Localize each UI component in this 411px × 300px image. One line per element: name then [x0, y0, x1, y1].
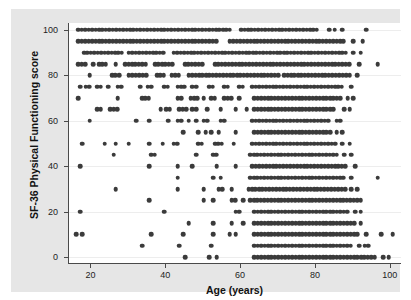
data-point — [161, 50, 166, 55]
y-tick-mark — [64, 30, 68, 31]
data-point — [113, 62, 118, 67]
data-point — [78, 209, 83, 214]
data-point — [194, 107, 199, 112]
data-point — [276, 73, 281, 78]
data-point — [113, 141, 118, 146]
data-point — [340, 141, 345, 146]
data-point — [209, 130, 214, 135]
data-point — [201, 96, 206, 101]
data-point — [364, 28, 369, 33]
data-point — [359, 50, 364, 55]
figure-canvas: 020406080100 20406080100 Age (years) SF-… — [11, 9, 400, 292]
data-point — [338, 118, 343, 123]
data-point — [147, 96, 152, 101]
data-point — [355, 187, 360, 192]
data-point — [359, 221, 364, 226]
data-point — [152, 153, 157, 158]
data-point — [341, 39, 346, 44]
data-point — [340, 28, 345, 33]
data-point — [113, 187, 118, 192]
data-point — [331, 107, 336, 112]
data-point — [212, 96, 217, 101]
data-point — [333, 141, 338, 146]
data-point — [233, 130, 238, 135]
data-point — [149, 84, 154, 89]
data-point — [218, 107, 223, 112]
plot-inner-canvas — [69, 23, 401, 263]
data-point — [210, 84, 215, 89]
data-point — [348, 243, 353, 248]
y-tick-mark — [64, 166, 68, 167]
data-point — [340, 130, 345, 135]
data-point — [344, 50, 349, 55]
data-point — [229, 187, 234, 192]
data-point — [194, 118, 199, 123]
data-point — [106, 84, 111, 89]
data-point — [190, 164, 195, 169]
x-tick-mark — [240, 264, 241, 268]
data-point — [351, 96, 356, 101]
data-point — [91, 62, 96, 67]
data-point — [328, 130, 333, 135]
data-point — [199, 141, 204, 146]
data-point — [220, 187, 225, 192]
x-tick-mark — [390, 264, 391, 268]
data-point — [200, 62, 205, 67]
data-point — [237, 96, 242, 101]
data-point — [347, 107, 352, 112]
x-tick-mark — [165, 264, 166, 268]
data-point — [127, 141, 132, 146]
data-point — [120, 50, 125, 55]
data-point — [327, 28, 332, 33]
data-point — [83, 62, 88, 67]
data-point — [175, 187, 180, 192]
data-point — [138, 84, 143, 89]
data-point — [170, 62, 175, 67]
data-point — [205, 118, 210, 123]
data-point — [115, 96, 120, 101]
data-point — [349, 187, 354, 192]
data-point — [355, 73, 360, 78]
x-tick-label: 80 — [302, 271, 328, 280]
data-point — [359, 209, 364, 214]
y-tick-mark — [64, 121, 68, 122]
data-point — [147, 198, 152, 203]
data-point — [195, 96, 200, 101]
data-point — [233, 107, 238, 112]
data-point — [342, 153, 347, 158]
data-point — [345, 96, 350, 101]
data-point — [87, 84, 92, 89]
data-point — [175, 175, 180, 180]
y-tick-mark — [64, 212, 68, 213]
data-point — [240, 84, 245, 89]
data-point — [183, 255, 188, 260]
data-point — [149, 232, 154, 237]
data-point — [80, 232, 85, 237]
data-point — [161, 73, 166, 78]
data-point — [119, 84, 124, 89]
x-tick-mark — [315, 264, 316, 268]
data-point — [214, 164, 219, 169]
data-point — [352, 221, 357, 226]
data-point — [360, 39, 365, 44]
data-point — [343, 164, 348, 169]
data-point — [211, 232, 216, 237]
x-tick-label: 100 — [377, 271, 403, 280]
data-point — [179, 118, 184, 123]
data-point — [80, 141, 85, 146]
x-tick-label: 20 — [77, 271, 103, 280]
data-point — [343, 187, 348, 192]
data-point — [177, 243, 182, 248]
data-point — [332, 28, 337, 33]
data-point — [233, 232, 238, 237]
data-point — [334, 130, 339, 135]
data-point — [214, 255, 219, 260]
plot-area — [68, 23, 401, 264]
x-tick-label: 60 — [227, 271, 253, 280]
data-point — [194, 153, 199, 158]
data-point — [179, 96, 184, 101]
data-point — [181, 130, 186, 135]
data-point — [175, 164, 180, 169]
y-axis-title: SF-36 Physical Functioning score — [28, 30, 40, 240]
data-point — [358, 198, 363, 203]
